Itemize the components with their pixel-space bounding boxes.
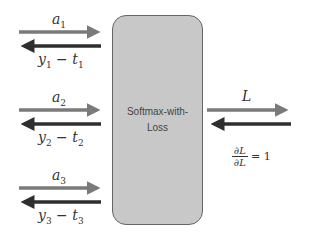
label-y2-t2: y2 − t2 (38, 129, 84, 148)
node-label: Softmax-with-Loss (118, 104, 198, 136)
fraction-numerator: ∂L (234, 145, 246, 156)
softmax-with-loss-node: Softmax-with-Loss (112, 15, 203, 225)
fraction-denominator: ∂L (234, 157, 246, 168)
equals-one: = 1 (251, 150, 271, 163)
label-y3-t3: y3 − t3 (38, 207, 84, 226)
label-y1-t1: y1 − t1 (38, 51, 84, 70)
label-dL-dL-equals-1: ∂L ∂L = 1 (232, 145, 271, 168)
label-a2: a2 (52, 89, 66, 108)
label-a1: a1 (52, 11, 66, 30)
label-a3: a3 (52, 167, 66, 186)
label-L: L (242, 88, 251, 104)
